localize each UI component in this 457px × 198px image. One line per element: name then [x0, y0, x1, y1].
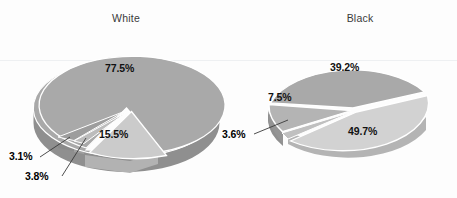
- pie-black-label-third: 7.5%: [268, 91, 292, 103]
- pie-black-graphic: [0, 0, 457, 198]
- pie-black-label-second: 39.2%: [330, 61, 359, 73]
- pie-black-label-fourth: 3.6%: [222, 128, 246, 140]
- pie-chart-figure: White 77.5% 15.5: [0, 0, 457, 198]
- pie-black-label-major: 49.7%: [348, 125, 377, 137]
